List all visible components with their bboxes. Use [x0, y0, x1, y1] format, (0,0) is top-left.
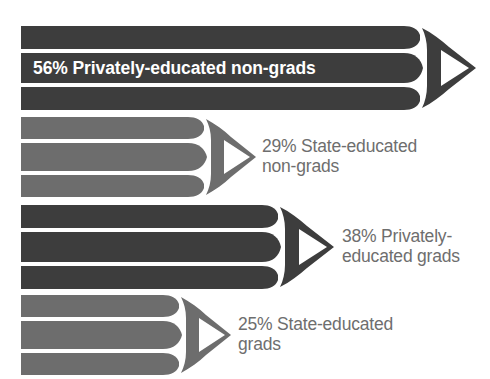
bar-row-state-educated-non-grads: 29% State-educated non-grads — [0, 117, 490, 197]
bar-label-privately-educated-grads: 38% Privately- educated grads — [342, 227, 460, 266]
bar-row-privately-educated-non-grads: 56% Privately-educated non-grads — [0, 26, 490, 110]
bar-row-privately-educated-grads: 38% Privately- educated grads — [0, 205, 490, 289]
bar-label-state-educated-grads: 25% State-educated grads — [238, 315, 393, 354]
bar-label-privately-educated-non-grads: 56% Privately-educated non-grads — [33, 60, 316, 78]
bar-label-state-educated-non-grads: 29% State-educated non-grads — [262, 137, 417, 176]
pencil-bar-chart: 56% Privately-educated non-grads 29% Sta… — [0, 0, 490, 379]
bar-row-state-educated-grads: 25% State-educated grads — [0, 295, 490, 375]
